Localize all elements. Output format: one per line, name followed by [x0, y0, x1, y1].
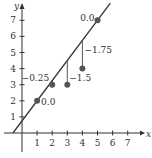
data-point [49, 82, 55, 88]
residual-label: 0.0 [80, 13, 95, 23]
y-axis-arrow-icon [20, 3, 25, 9]
x-tick-label: 1 [34, 138, 40, 148]
residual-label: 0.0 [41, 97, 56, 107]
x-axis-label: x [146, 129, 151, 139]
y-axis-label: y [13, 1, 20, 11]
y-tick-label: 1 [10, 112, 16, 122]
y-tick-label: 2 [10, 96, 16, 106]
x-tick-label: 3 [64, 138, 70, 148]
data-point [95, 17, 101, 23]
residual-plot: 1234567 1234567 x y 0.0−0.25−1.5−1.750.0 [0, 0, 152, 158]
x-tick-label: 2 [49, 138, 55, 148]
y-tick-label: 6 [10, 31, 16, 41]
data-point [79, 66, 85, 72]
x-tick-label: 6 [110, 138, 116, 148]
y-tick-label: 4 [10, 64, 16, 74]
y-tick-label: 5 [10, 48, 16, 58]
y-tick-label: 3 [10, 80, 16, 90]
residual-label: −1.75 [84, 45, 112, 55]
data-point [34, 98, 40, 104]
x-tick-label: 5 [95, 138, 101, 148]
x-tick-label: 4 [80, 138, 86, 148]
residual-label: −1.5 [69, 73, 91, 83]
y-tick-label: 7 [10, 15, 16, 25]
x-tick-label: 7 [125, 138, 131, 148]
residual-label: −0.25 [22, 73, 50, 83]
x-axis-arrow-icon [140, 131, 145, 136]
